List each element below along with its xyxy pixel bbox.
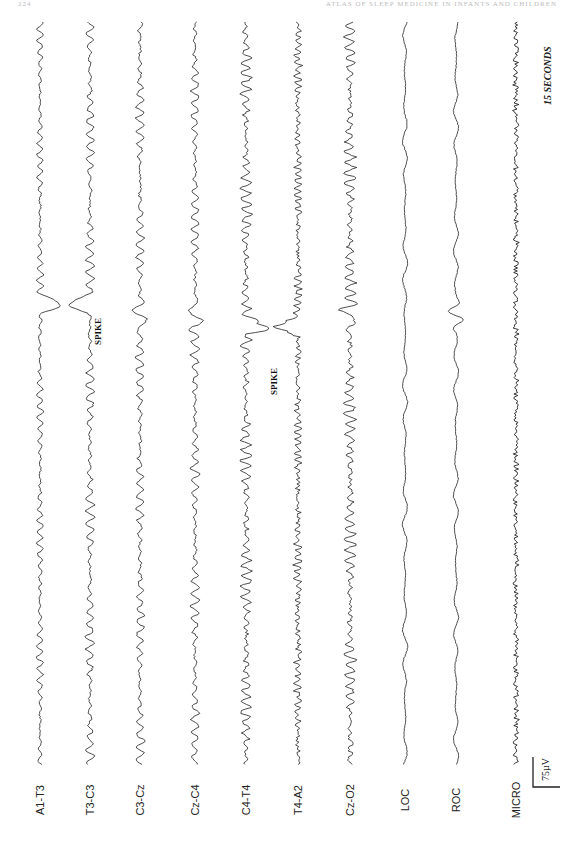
eeg-trace-micro bbox=[513, 22, 520, 765]
eeg-trace-c3-cz bbox=[132, 22, 148, 765]
channel-label-roc: ROC bbox=[450, 788, 462, 813]
channel-label-c3-cz: C3-Cz bbox=[134, 784, 146, 815]
eeg-trace-c4-t4 bbox=[240, 22, 269, 765]
eeg-trace-t3-c3 bbox=[69, 22, 95, 765]
spike-annotation-right: SPIKE bbox=[269, 368, 279, 395]
channel-label-t3-c3: T3-C3 bbox=[84, 785, 96, 816]
amplitude-scale-bar: 75µV bbox=[533, 757, 560, 787]
time-scale-label: 15 SECONDS bbox=[542, 46, 553, 105]
channel-label-loc: LOC bbox=[399, 789, 411, 812]
eeg-trace-cz-c4 bbox=[189, 22, 204, 765]
channel-labels: A1-T3T3-C3C3-CzCz-C4C4-T4T4-A2Cz-O2LOCRO… bbox=[34, 781, 522, 818]
eeg-trace-loc bbox=[402, 22, 408, 765]
spike-annotation-left: SPIKE bbox=[93, 318, 103, 345]
eeg-figure: A1-T3T3-C3C3-CzCz-C4C4-T4T4-A2Cz-O2LOCRO… bbox=[0, 0, 567, 841]
channel-label-cz-o2: Cz-O2 bbox=[344, 784, 356, 816]
channel-label-c4-t4: C4-T4 bbox=[240, 785, 252, 816]
eeg-trace-a1-t3 bbox=[36, 22, 60, 765]
eeg-trace-cz-o2 bbox=[338, 22, 357, 765]
channel-label-cz-c4: Cz-C4 bbox=[189, 784, 201, 815]
channel-label-a1-t3: A1-T3 bbox=[34, 785, 46, 815]
amplitude-scale-label: 75µV bbox=[540, 757, 551, 781]
channel-label-t4-a2: T4-A2 bbox=[292, 785, 304, 815]
channel-label-micro: MICRO bbox=[510, 781, 522, 818]
eeg-trace-roc bbox=[448, 22, 463, 765]
